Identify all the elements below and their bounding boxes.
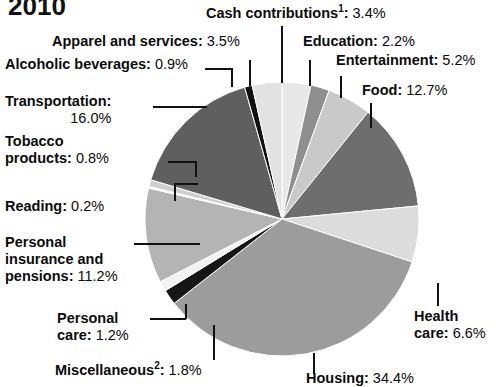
label-personal-insurance-line3: pensions [5, 268, 69, 284]
label-personal-care-sep: : [87, 327, 96, 343]
leader-line-reading-h [174, 183, 198, 185]
label-housing-sep: : [364, 370, 373, 386]
label-alcoholic-sep: : [146, 56, 155, 72]
leader-line-tobacco-h [168, 161, 196, 163]
label-transportation: Transportation: 16.0% [5, 93, 111, 127]
chart-page: 2010 Cash contributions: 3.4%Education: … [0, 0, 501, 387]
leader-line-food [370, 103, 372, 128]
leader-line-personal-insurance [134, 243, 200, 245]
label-alcoholic-name: Alcoholic beverages [5, 56, 146, 72]
label-education-name: Education [303, 33, 373, 49]
label-tobacco-name-line1: Tobacco [5, 133, 64, 149]
label-personal-care-line1: Personal [57, 310, 118, 326]
leader-line-apparel [249, 60, 251, 86]
label-personal-care-value: 1.2% [96, 327, 129, 343]
label-tobacco-value: 0.8% [76, 150, 109, 166]
label-housing-value: 34.4% [373, 370, 414, 386]
label-personal-insurance-value: 11.2% [78, 268, 118, 284]
label-food-sep: : [397, 82, 406, 98]
label-miscellaneous-sep: : [160, 362, 169, 378]
leader-line-alcoholic-v [231, 68, 233, 87]
label-transportation-name: Transportation: [5, 93, 111, 109]
label-cash-contributions-sep: : [344, 5, 353, 21]
label-reading-name: Reading [5, 198, 62, 214]
leader-line-health-care [437, 283, 439, 306]
label-entertainment: Entertainment: 5.2% [336, 52, 475, 69]
label-entertainment-value: 5.2% [442, 52, 475, 68]
label-food-value: 12.7% [406, 82, 447, 98]
leader-line-education [309, 60, 311, 86]
label-personal-insurance-line2: insurance and [5, 251, 103, 267]
label-education-value: 2.2% [382, 33, 415, 49]
label-health-care-line2: care [414, 325, 444, 341]
label-entertainment-name: Entertainment [336, 52, 434, 68]
leader-line-miscellaneous [213, 325, 215, 360]
leader-line-alcoholic-h [205, 68, 232, 70]
label-miscellaneous-value: 1.8% [169, 362, 202, 378]
label-apparel-sep: : [198, 33, 207, 49]
label-cash-contributions: Cash contributions1: 3.4% [206, 5, 386, 22]
label-health-care-line1: Health [414, 308, 458, 324]
leader-line-tobacco-v [195, 161, 197, 177]
label-miscellaneous-name: Miscellaneous [55, 362, 154, 378]
label-personal-care: Personal care: 1.2% [57, 310, 129, 344]
label-education: Education: 2.2% [303, 33, 415, 50]
label-tobacco-name-line2: products [5, 150, 67, 166]
label-reading-sep: : [62, 198, 71, 214]
label-alcoholic-beverages: Alcoholic beverages: 0.9% [5, 56, 188, 73]
label-cash-contributions-name: Cash contributions [206, 5, 338, 21]
label-apparel-name: Apparel and services [52, 33, 198, 49]
label-tobacco-products: Tobacco products: 0.8% [5, 133, 109, 167]
label-tobacco-sep: : [67, 150, 76, 166]
label-personal-insurance-sep: : [69, 268, 78, 284]
label-housing: Housing: 34.4% [306, 370, 414, 387]
leader-line-transportation [153, 106, 207, 108]
label-personal-insurance-line1: Personal [5, 234, 66, 250]
label-transportation-value: 16.0% [70, 110, 111, 126]
leader-line-entertainment [340, 76, 342, 98]
label-food: Food: 12.7% [362, 82, 447, 99]
label-apparel-and-services: Apparel and services: 3.5% [52, 33, 240, 50]
label-reading-value: 0.2% [71, 198, 104, 214]
label-apparel-value: 3.5% [207, 33, 240, 49]
label-reading: Reading: 0.2% [5, 198, 104, 215]
leader-line-personal-care-v [185, 304, 187, 319]
label-health-care: Health care: 6.6% [414, 308, 486, 342]
label-housing-name: Housing [306, 370, 364, 386]
leader-line-reading-v [174, 183, 176, 201]
label-miscellaneous: Miscellaneous2: 1.8% [55, 362, 202, 379]
label-cash-contributions-value: 3.4% [353, 5, 386, 21]
leader-line-personal-care-h [150, 318, 186, 320]
label-food-name: Food [362, 82, 397, 98]
label-health-care-sep: : [444, 325, 453, 341]
label-personal-care-line2: care [57, 327, 87, 343]
label-health-care-value: 6.6% [453, 325, 486, 341]
leader-line-cash-contributions [281, 26, 283, 83]
label-education-sep: : [373, 33, 382, 49]
label-personal-insurance-and-pensions: Personal insurance and pensions: 11.2% [5, 234, 118, 285]
label-alcoholic-value: 0.9% [155, 56, 188, 72]
